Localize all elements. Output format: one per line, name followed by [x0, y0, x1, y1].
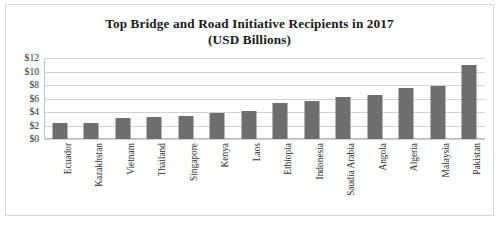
- y-tick-label: $2: [5, 121, 39, 131]
- bar[interactable]: [462, 65, 477, 139]
- x-tick-label: Saudia Arabia: [347, 143, 356, 196]
- y-tick-label: $0: [5, 134, 39, 144]
- bar-slot: [170, 58, 202, 139]
- bar[interactable]: [241, 111, 256, 139]
- x-label-slot: Kazakhstan: [76, 141, 108, 219]
- bar-slot: [44, 58, 76, 139]
- x-tick-label: Laos: [253, 143, 262, 161]
- bar-slot: [139, 58, 171, 139]
- y-tick-label: $12: [5, 53, 39, 63]
- bar[interactable]: [273, 103, 288, 139]
- bar[interactable]: [399, 88, 414, 139]
- y-tick-label: $8: [5, 80, 39, 90]
- x-tick-label: Angola: [379, 143, 388, 171]
- x-label-slot: Thailand: [139, 141, 171, 219]
- bar[interactable]: [84, 123, 99, 139]
- x-tick-label: Pakistan: [473, 143, 482, 175]
- bar[interactable]: [304, 101, 319, 139]
- x-label-slot: Laos: [233, 141, 265, 219]
- x-label-slot: Ethiopia: [265, 141, 297, 219]
- bar-slot: [107, 58, 139, 139]
- x-label-slot: Singapore: [170, 141, 202, 219]
- x-label-slot: Malaysia: [422, 141, 454, 219]
- bar-slot: [202, 58, 234, 139]
- x-label-slot: Saudia Arabia: [328, 141, 360, 219]
- bar-slot: [422, 58, 454, 139]
- bar-slot: [265, 58, 297, 139]
- bar[interactable]: [210, 113, 225, 139]
- y-tick-label: $6: [5, 94, 39, 104]
- x-tick-label: Vietnam: [127, 143, 136, 175]
- bar-slot: [454, 58, 486, 139]
- bar[interactable]: [115, 118, 130, 139]
- x-label-slot: Ecuador: [44, 141, 76, 219]
- bar-slot: [328, 58, 360, 139]
- x-axis-category-labels: EcuadorKazakhstanVietnamThailandSingapor…: [44, 141, 485, 219]
- x-label-slot: Algeria: [391, 141, 423, 219]
- x-tick-label: Indonesia: [316, 143, 325, 179]
- bar-slot: [359, 58, 391, 139]
- x-tick-label: Thailand: [158, 143, 167, 176]
- bar-slot: [233, 58, 265, 139]
- bar-slot: [76, 58, 108, 139]
- bar[interactable]: [430, 86, 445, 139]
- x-tick-label: Ecuador: [64, 143, 73, 174]
- chart-figure: Top Bridge and Road Initiative Recipient…: [0, 0, 499, 225]
- x-tick-label: Algeria: [410, 143, 419, 171]
- x-label-slot: Pakistan: [454, 141, 486, 219]
- bar[interactable]: [147, 117, 162, 139]
- bar-slot: [391, 58, 423, 139]
- x-tick-label: Kenya: [221, 143, 230, 167]
- y-tick-label: $4: [5, 107, 39, 117]
- x-tick-label: Malaysia: [442, 143, 451, 177]
- x-label-slot: Vietnam: [107, 141, 139, 219]
- bar[interactable]: [178, 116, 193, 139]
- bar-series: [44, 58, 485, 139]
- x-label-slot: Angola: [359, 141, 391, 219]
- bar[interactable]: [367, 95, 382, 139]
- x-tick-label: Ethiopia: [284, 143, 293, 175]
- bar[interactable]: [52, 123, 67, 139]
- bar[interactable]: [336, 97, 351, 139]
- x-label-slot: Indonesia: [296, 141, 328, 219]
- bar-slot: [296, 58, 328, 139]
- x-tick-label: Singapore: [190, 143, 199, 181]
- x-tick-label: Kazakhstan: [95, 143, 104, 187]
- x-label-slot: Kenya: [202, 141, 234, 219]
- y-tick-label: $10: [5, 67, 39, 77]
